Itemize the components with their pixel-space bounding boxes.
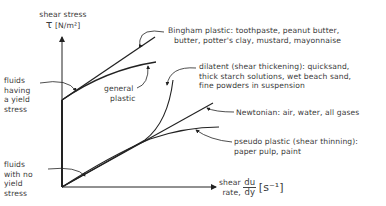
bingham-line-1: Bingham plastic: toothpaste, peanut butt… <box>168 26 341 36</box>
yield-line-3: a yield <box>4 95 30 105</box>
dilatant-line-2: thick starch solutions, wet beach sand, <box>199 72 351 82</box>
y-unit-text: [N/m²] <box>55 21 80 30</box>
newtonian-label: Newtonian: air, water, all gases <box>236 108 359 118</box>
y-axis-unit: τ [N/m²] <box>38 20 88 31</box>
x-axis-label: shear rate, du dy [s⁻¹] <box>219 178 284 197</box>
no-yield-line-2: with no <box>4 170 33 180</box>
bingham-label: Bingham plastic: toothpaste, peanut butt… <box>168 26 341 45</box>
bingham-line-2: butter, potter's clay, mustard, mayonnai… <box>168 36 341 46</box>
leader-no-yield <box>48 168 85 176</box>
no-yield-line-4: stress <box>4 189 33 199</box>
dilatant-line-1: dilatent (shear thickening): quicksand, <box>199 62 351 72</box>
dilatant-line-3: fine powders in suspension <box>199 81 351 91</box>
du-dy-fraction: du dy <box>243 178 256 197</box>
yield-line-1: fluids <box>4 76 30 86</box>
newtonian-line-1: Newtonian: air, water, all gases <box>236 108 359 118</box>
pseudo-plastic-line-1: pseudo plastic (shear thinning): <box>234 137 358 147</box>
yield-line-2: having <box>4 86 30 96</box>
no-yield-stress-label: fluids with no yield stress <box>4 160 33 198</box>
leader-dilatant <box>167 68 196 85</box>
fraction-denominator: dy <box>243 188 256 197</box>
no-yield-line-1: fluids <box>4 160 33 170</box>
x-axis-unit: [s⁻¹] <box>259 181 284 194</box>
dilatant-label: dilatent (shear thickening): quicksand, … <box>199 62 351 91</box>
general-plastic-label: general plastic <box>102 84 136 103</box>
tau-symbol: τ <box>46 18 53 31</box>
pseudo-plastic-label: pseudo plastic (shear thinning): paper p… <box>234 137 358 156</box>
x-axis-label-line-2: rate, <box>219 188 241 198</box>
general-plastic-line-2: plastic <box>102 94 136 104</box>
pseudo-plastic-line-2: paper pulp, paint <box>234 147 358 157</box>
pseudo-plastic-curve <box>62 127 219 187</box>
leader-yield <box>40 82 76 91</box>
x-axis-label-line-1: shear <box>219 178 241 188</box>
general-plastic-line-1: general <box>102 84 136 94</box>
y-axis-label: shear stress τ [N/m²] <box>38 10 88 30</box>
no-yield-line-3: yield <box>4 179 33 189</box>
leader-pseudo-plastic <box>196 130 232 142</box>
leader-general-plastic <box>137 66 148 88</box>
leader-newtonian <box>207 108 234 112</box>
yield-line-4: stress <box>4 105 30 115</box>
yield-stress-label: fluids having a yield stress <box>4 76 30 114</box>
